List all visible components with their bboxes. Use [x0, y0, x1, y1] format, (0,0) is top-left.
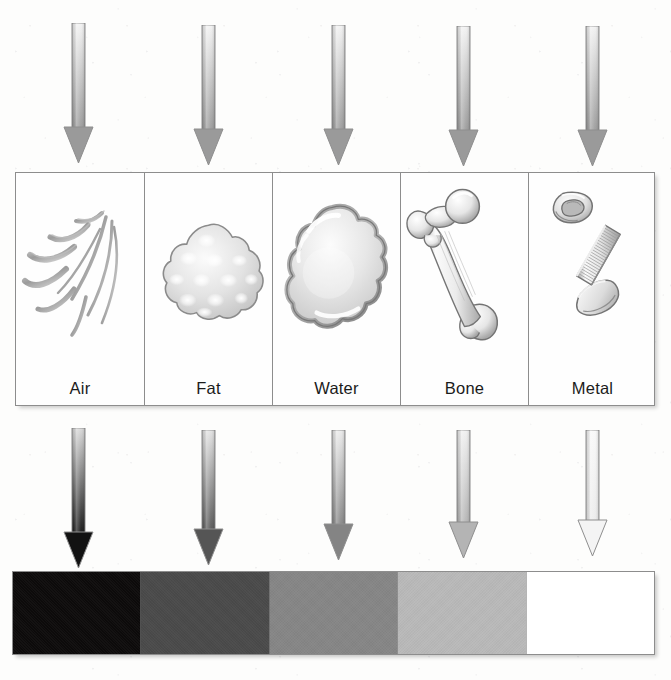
film-density-strip [12, 571, 655, 655]
arrow-shaft-shading [332, 430, 345, 525]
arrow-glyph [439, 430, 488, 558]
arrow-head [194, 529, 223, 565]
arrow-head [578, 130, 607, 166]
arrow-shaft-shading [457, 26, 470, 131]
arrow-glyph [184, 25, 233, 165]
arrow-glyph [314, 430, 363, 560]
arrow-head [64, 127, 93, 163]
air-swirls-icon [16, 177, 144, 359]
panel-label-air: Air [16, 379, 144, 398]
arrow-head [324, 129, 353, 165]
arrow-shaft-shading [457, 430, 470, 523]
panel-label-water: Water [273, 379, 400, 398]
transmitted-air-arrow [54, 428, 103, 568]
panel-label-fat: Fat [145, 379, 272, 398]
arrow-shaft-shading [72, 23, 85, 128]
film-metal [526, 572, 654, 654]
panel-cell-bone: Bone [400, 173, 528, 405]
panel-cell-fat: Fat [144, 173, 272, 405]
arrow-head [64, 532, 93, 568]
panel-cell-water: Water [272, 173, 400, 405]
incident-bone-arrow [439, 26, 488, 166]
arrow-glyph [54, 23, 103, 163]
arrow-shaft-shading [586, 26, 599, 131]
figure-canvas: Air [0, 0, 671, 680]
film-water [269, 572, 397, 654]
incident-water-arrow [314, 25, 363, 165]
arrow-shaft-shading [202, 430, 215, 530]
arrow-glyph [54, 428, 103, 568]
arrow-head [194, 129, 223, 165]
arrow-head [449, 130, 478, 166]
arrow-head [324, 524, 353, 560]
arrow-shaft-shading [202, 25, 215, 130]
panel-cell-air: Air [16, 173, 144, 405]
arrow-glyph [568, 26, 617, 166]
water-droplet-icon [273, 177, 400, 359]
arrow-glyph [568, 430, 617, 556]
arrow-head [449, 522, 478, 558]
transmitted-fat-arrow [184, 430, 233, 565]
transmitted-bone-arrow [439, 430, 488, 558]
arrow-shaft-shading [586, 430, 599, 521]
arrow-head [578, 520, 607, 556]
bolt-and-nut-icon [529, 177, 656, 359]
transmitted-water-arrow [314, 430, 363, 560]
film-fat [140, 572, 268, 654]
panel-label-metal: Metal [529, 379, 656, 398]
arrow-shaft-shading [332, 25, 345, 130]
arrow-glyph [184, 430, 233, 565]
incident-fat-arrow [184, 25, 233, 165]
arrow-glyph [314, 25, 363, 165]
transmitted-metal-arrow [568, 430, 617, 556]
incident-air-arrow [54, 23, 103, 163]
arrow-shaft-shading [72, 428, 85, 533]
femur-bone-icon [401, 177, 528, 359]
fat-blob-icon [145, 177, 272, 359]
incident-metal-arrow [568, 26, 617, 166]
panel-cell-metal: Metal [528, 173, 656, 405]
specimen-panel: Air [15, 172, 655, 406]
film-air [13, 572, 140, 654]
film-bone [397, 572, 525, 654]
panel-label-bone: Bone [401, 379, 528, 398]
arrow-glyph [439, 26, 488, 166]
